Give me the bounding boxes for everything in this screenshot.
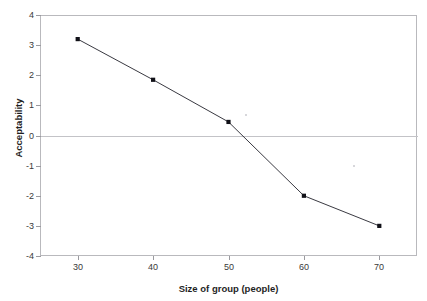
y-tick-mark [36,105,41,106]
y-tick-mark [36,226,41,227]
x-tick-mark [229,256,230,260]
x-tick-mark [379,256,380,260]
y-tick-mark [36,15,41,16]
x-tick-label: 30 [58,263,98,272]
y-tick-label: -3 [0,222,34,231]
y-tick-label: -2 [0,192,34,201]
x-tick-label: 70 [359,263,399,272]
x-tick-label: 40 [133,263,173,272]
x-tick-mark [304,256,305,260]
x-axis-title: Size of group (people) [40,283,417,294]
y-axis-title: Acceptability [14,68,24,188]
y-tick-mark [36,75,41,76]
x-tick-label: 60 [284,263,324,272]
page-bleed-text [0,294,427,301]
y-tick-mark [36,45,41,46]
x-tick-label: 50 [209,263,249,272]
y-tick-label: -4 [0,252,34,261]
y-tick-label: 4 [0,11,34,20]
x-tick-mark [78,256,79,260]
y-axis: 43210-1-2-3-4 [0,0,427,301]
y-tick-mark [36,256,41,257]
y-tick-mark [36,196,41,197]
y-tick-mark [36,166,41,167]
y-tick-mark [36,136,41,137]
acceptability-vs-group-size-chart: 43210-1-2-3-4 Acceptability 3040506070 S… [0,0,427,301]
y-tick-label: 3 [0,41,34,50]
x-tick-mark [153,256,154,260]
